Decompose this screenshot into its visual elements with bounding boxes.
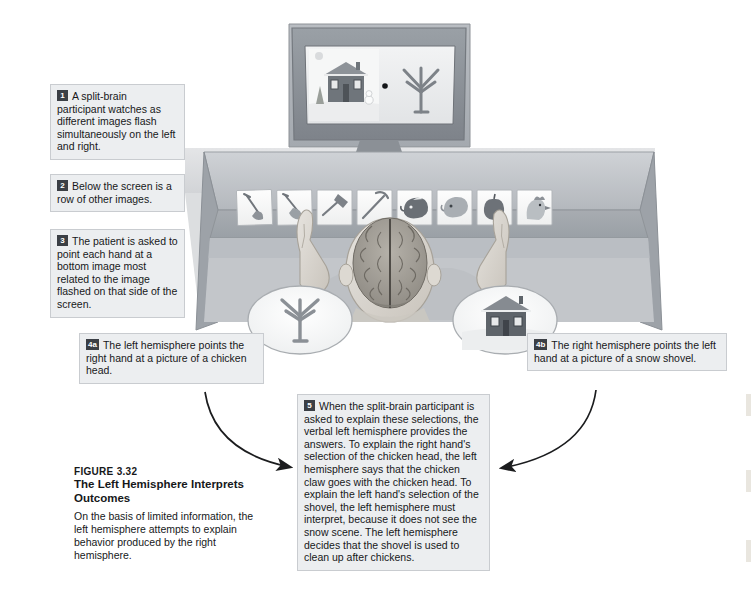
figure-title: The Left Hemisphere Interprets Outcomes [74,478,254,505]
callout-text-3: The patient is asked to point each hand … [57,235,178,310]
callout-step-4b: 4bThe right hemisphere points the left h… [527,333,727,371]
image-card-lamb [437,190,472,225]
callout-text-5: When the split-brain participant is aske… [304,400,479,563]
center-fixation-dot [382,83,388,89]
page-edge-mark-bottom [746,540,751,562]
callout-step-5: 5When the split-brain participant is ask… [297,394,490,571]
callout-badge-3: 3 [57,235,68,246]
callout-text-4b: The right hemisphere points the left han… [534,339,716,364]
image-card-chicken-head [517,190,552,225]
figure-caption: FIGURE 3.32 The Left Hemisphere Interpre… [74,466,254,562]
figure-number: FIGURE 3.32 [74,466,254,477]
display-monitor [292,28,466,152]
page-edge-mark-top [746,394,751,416]
figure-description: On the basis of limited information, the… [74,510,254,562]
page-edge-mark-middle [746,470,751,492]
callout-step-3: 3The patient is asked to point each hand… [50,229,185,318]
screen-left-image-snow-scene [309,49,379,121]
callout-badge-5: 5 [304,400,315,411]
arrow-left-to-explanation [205,392,290,467]
callout-badge-4b: 4b [534,339,547,350]
callout-step-4a: 4aThe left hemisphere points the right h… [79,333,264,384]
callout-badge-2: 2 [57,180,68,191]
callout-badge-1: 1 [57,90,68,101]
callout-text-2: Below the screen is a row of other image… [57,180,172,205]
callout-step-2: 2Below the screen is a row of other imag… [50,174,185,212]
callout-text-1: A split-brain participant watches as dif… [57,90,175,152]
image-card-hammer [317,190,352,225]
brain-top-view [353,218,427,308]
callout-badge-4a: 4a [86,339,99,350]
image-card-snow-shovel [236,189,272,225]
callout-step-1: 1A split-brain participant watches as di… [50,84,185,160]
arrow-right-to-explanation [502,390,596,468]
callout-text-4a: The left hemisphere points the right han… [86,339,247,376]
